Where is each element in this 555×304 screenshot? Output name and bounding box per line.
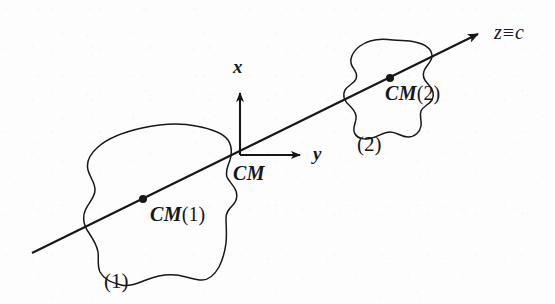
- x-axis-label: x: [233, 57, 243, 76]
- body-2-tag: (2): [357, 134, 382, 155]
- cm-1-dot: [139, 195, 147, 203]
- cm-body-1-index: (1): [182, 203, 205, 225]
- diagram-canvas: [0, 0, 555, 304]
- z-axis-label: z≡c: [494, 22, 524, 42]
- cm-body-1-symbol: CM: [150, 203, 182, 225]
- equivalence-symbol: ≡: [502, 21, 515, 43]
- cm-body-2-label: CM(2): [385, 83, 440, 103]
- figure-root: z≡c x y CM CM(1) CM(2) (1) (2): [0, 0, 555, 304]
- cm-2-dot: [386, 74, 394, 82]
- cm-body-2-symbol: CM: [385, 82, 417, 104]
- cm-body-2-index: (2): [417, 82, 440, 104]
- y-axis-label: y: [313, 144, 321, 163]
- z-symbol: z: [494, 21, 502, 43]
- z-axis-line: [32, 34, 478, 253]
- cm-origin-label: CM: [233, 163, 265, 183]
- body-1-tag: (1): [104, 271, 129, 292]
- c-symbol: c: [515, 21, 524, 43]
- cm-body-1-label: CM(1): [150, 204, 205, 224]
